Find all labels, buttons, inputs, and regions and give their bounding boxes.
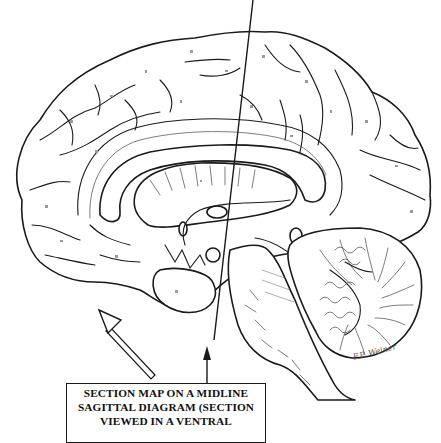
caption-line-1: SECTION MAP ON A MIDLINE (67, 386, 265, 400)
view-direction-arrow (99, 310, 155, 379)
caption-line-3: VIEWED IN A VENTRAL (67, 414, 265, 428)
caption-box: SECTION MAP ON A MIDLINE SAGITTAL DIAGRA… (66, 383, 266, 443)
caption-line-2: SAGITTAL DIAGRAM (SECTION (67, 400, 265, 414)
open-arrowhead-icon (99, 310, 121, 333)
section-arrowhead-icon (203, 346, 211, 360)
temporal-lobe (153, 268, 215, 312)
interthalamic-adhesion (207, 206, 227, 218)
mammillary-body (206, 248, 220, 262)
